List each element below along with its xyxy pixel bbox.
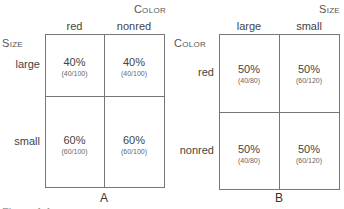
percent-value: 40% <box>104 56 164 69</box>
figure-caption: Figure 1.1 <box>2 206 62 209</box>
percent-value: 50% <box>279 63 339 76</box>
panel-a-divider-horizontal <box>45 96 165 97</box>
fraction-value: (60/120) <box>279 156 339 166</box>
percent-value: 50% <box>219 143 279 156</box>
percent-value: 50% <box>279 143 339 156</box>
fraction-value: (60/120) <box>279 76 339 86</box>
panel-b-cell-red-small: 50% (60/120) <box>279 63 339 86</box>
panel-a-column-variable: Color <box>120 3 166 15</box>
panel-a-row-header-large: large <box>0 58 40 70</box>
panel-a-cell-large-nonred: 40% (40/100) <box>104 56 164 79</box>
panel-a-column-header-nonred: nonred <box>104 20 164 32</box>
panel-b-cell-nonred-large: 50% (40/80) <box>219 143 279 166</box>
panel-b-divider-horizontal <box>219 112 340 113</box>
panel-b-column-header-small: small <box>279 20 339 32</box>
figure-caption-text: Figure 1.1 <box>2 206 52 209</box>
fraction-value: (40/100) <box>104 69 164 79</box>
percent-value: 40% <box>45 56 104 69</box>
percent-value: 60% <box>45 134 104 147</box>
panel-a-column-header-red: red <box>45 20 104 32</box>
panel-a-cell-small-red: 60% (60/100) <box>45 134 104 157</box>
panel-a-row-header-small: small <box>0 135 40 147</box>
panel-b-row-variable: Color <box>174 37 206 49</box>
panel-b-label: B <box>267 191 291 205</box>
panel-a-cell-large-red: 40% (40/100) <box>45 56 104 79</box>
panel-b-cell-nonred-small: 50% (60/120) <box>279 143 339 166</box>
panel-b-cell-red-large: 50% (40/80) <box>219 63 279 86</box>
panel-b-row-header-red: red <box>170 66 214 78</box>
fraction-value: (40/100) <box>45 69 104 79</box>
panel-b-row-header-nonred: nonred <box>170 144 214 156</box>
panel-b-column-header-large: large <box>219 20 279 32</box>
fraction-value: (60/100) <box>104 147 164 157</box>
fraction-value: (40/80) <box>219 76 279 86</box>
percent-value: 60% <box>104 134 164 147</box>
fraction-value: (60/100) <box>45 147 104 157</box>
percent-value: 50% <box>219 63 279 76</box>
fraction-value: (40/80) <box>219 156 279 166</box>
panel-b-column-variable: Size <box>300 3 340 15</box>
panel-a-label: A <box>92 191 116 205</box>
panel-a-cell-small-nonred: 60% (60/100) <box>104 134 164 157</box>
panel-a-row-variable: Size <box>2 37 23 49</box>
